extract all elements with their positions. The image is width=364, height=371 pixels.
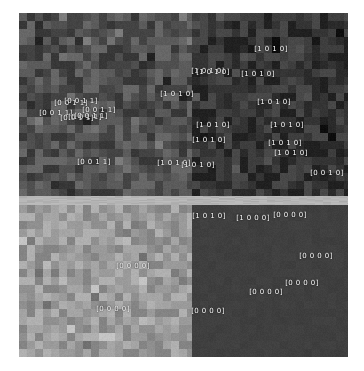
cluster-code-label: [0 0 0 0] [116, 262, 150, 270]
cluster-code-label: [1 0 1 0] [196, 121, 230, 129]
cluster-code-label: [1 0 1 0] [254, 45, 288, 53]
cluster-heatmap-plot: [0 0 1 1][0 0 1 1][0 0 1 1][0 0 1 1][0 0… [19, 13, 348, 357]
cluster-code-label: [0 0 0 0] [249, 288, 283, 296]
cluster-code-label: [1 0 1 0] [160, 90, 194, 98]
cluster-code-label: [0 0 1 1] [60, 114, 94, 122]
cluster-code-label: [0 0 1 1] [39, 109, 73, 117]
cluster-code-label: [1 0 1 0] [257, 98, 291, 106]
cluster-code-label: [0 0 0 0] [273, 211, 307, 219]
cluster-code-label: [1 0 1 0] [192, 212, 226, 220]
cluster-code-label: [1 0 0 0] [236, 214, 270, 222]
cluster-code-label: [1 0 1 0] [181, 161, 215, 169]
cluster-code-label: [1 0 1 0] [191, 67, 225, 75]
cluster-code-label: [0 0 1 1] [54, 99, 88, 107]
cluster-code-label: [1 0 1 0] [270, 121, 304, 129]
cluster-code-label: [0 0 0 0] [299, 252, 333, 260]
cluster-code-label: [0 0 1 1] [77, 158, 111, 166]
cluster-code-label: [1 0 1 0] [241, 70, 275, 78]
cluster-code-label: [0 0 1 1] [74, 112, 108, 120]
cluster-code-label: [1 0 1 0] [157, 159, 191, 167]
cluster-label-layer: [0 0 1 1][0 0 1 1][0 0 1 1][0 0 1 1][0 0… [19, 13, 348, 357]
cluster-code-label: [0 0 1 1] [82, 106, 116, 114]
figure-canvas: [0 0 1 1][0 0 1 1][0 0 1 1][0 0 1 1][0 0… [0, 0, 364, 371]
cluster-code-label: [0 0 0 0] [96, 305, 130, 313]
cluster-code-label: [0 0 0 0] [191, 307, 225, 315]
cluster-code-label: [1 0 1 0] [274, 149, 308, 157]
cluster-code-label: [0 0 1 0] [310, 169, 344, 177]
cluster-code-label: [1 0 1 0] [196, 68, 230, 76]
cluster-code-label: [0 0 1 1] [68, 113, 102, 121]
cluster-code-label: [0 0 1 1] [64, 97, 98, 105]
cluster-code-label: [0 0 0 0] [285, 279, 319, 287]
cluster-code-label: [1 0 1 0] [268, 139, 302, 147]
cluster-code-label: [1 0 1 0] [192, 136, 226, 144]
